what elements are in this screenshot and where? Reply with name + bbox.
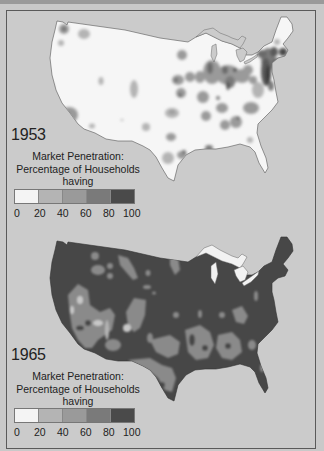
tick-label: 20 — [34, 207, 46, 219]
tick-label: 80 — [103, 426, 115, 438]
caption-line-2: Percentage of Households having — [8, 163, 148, 188]
tick-label: 0 — [14, 207, 20, 219]
legend-swatch-80-100 — [111, 409, 134, 422]
tick-label: 0 — [14, 426, 20, 438]
tick-label: 60 — [80, 207, 92, 219]
tick-label: 40 — [57, 207, 69, 219]
legend-ticks: 0 20 40 60 80 100 — [11, 426, 141, 438]
map-year: 1953 — [11, 126, 46, 144]
map-year: 1965 — [11, 346, 46, 364]
tick-label: 20 — [34, 426, 46, 438]
legend-swatch-0-20 — [15, 190, 39, 203]
tick-label: 60 — [80, 426, 92, 438]
caption-line-2: Percentage of Households having — [8, 383, 148, 408]
caption-line-1: Market Penetration: — [8, 370, 148, 383]
color-legend — [14, 408, 135, 423]
legend-swatch-60-80 — [87, 409, 111, 422]
tick-label: 80 — [103, 207, 115, 219]
tick-label: 40 — [57, 426, 69, 438]
legend-swatch-40-60 — [63, 190, 87, 203]
legend-swatch-40-60 — [63, 409, 87, 422]
legend-swatch-20-40 — [39, 409, 63, 422]
tick-label: 100 — [123, 426, 141, 438]
legend-swatch-20-40 — [39, 190, 63, 203]
color-legend — [14, 189, 135, 204]
caption-line-1: Market Penetration: — [8, 150, 148, 163]
legend-ticks: 0 20 40 60 80 100 — [11, 207, 141, 219]
legend-swatch-60-80 — [87, 190, 111, 203]
tick-label: 100 — [123, 207, 141, 219]
map-1965: 1965 Market Penetration: Percentage of H… — [0, 220, 324, 440]
map-1953: 1953 Market Penetration: Percentage of H… — [0, 0, 324, 220]
legend-swatch-80-100 — [111, 190, 134, 203]
legend-swatch-0-20 — [15, 409, 39, 422]
